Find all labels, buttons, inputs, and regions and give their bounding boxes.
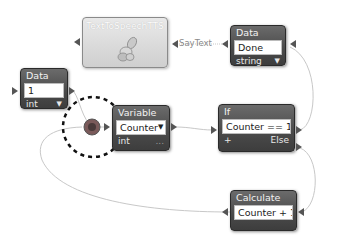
calculate-expression-input[interactable]: Counter + 1	[234, 205, 293, 220]
add-condition-button[interactable]: +	[224, 135, 232, 146]
variable-footer: int ...	[113, 135, 169, 148]
calculate-title: Calculate	[231, 191, 296, 205]
more-options-button[interactable]: ...	[155, 136, 164, 147]
data-done-type: string	[236, 56, 262, 67]
tts-node-title: TextToSpeechTTS	[83, 18, 167, 32]
hand-speech-icon	[117, 36, 139, 62]
tts-left-pin[interactable]	[74, 38, 80, 46]
wire-variable-to-if	[176, 127, 212, 130]
if-else-pin[interactable]	[296, 143, 302, 151]
chevron-down-icon[interactable]: ▼	[275, 56, 280, 67]
if-true-pin[interactable]	[296, 126, 302, 134]
wire-else-to-calculate	[300, 148, 315, 212]
tts-saytext-pin[interactable]	[172, 40, 178, 48]
variable-node[interactable]: Variable Counter ▼ int ...	[112, 105, 170, 151]
data-done-node[interactable]: Data Done string ▼	[230, 25, 286, 66]
data-done-value[interactable]: Done	[234, 40, 282, 55]
chevron-down-icon[interactable]: ▼	[158, 121, 163, 134]
calculate-left-pin[interactable]	[222, 208, 228, 216]
data-one-left-pin[interactable]	[12, 87, 18, 95]
saytext-label: SayText	[179, 38, 212, 48]
calculate-node[interactable]: Calculate Counter + 1	[230, 190, 297, 231]
variable-title: Variable	[113, 106, 169, 120]
data-done-type-select[interactable]: string ▼	[231, 55, 285, 68]
data-done-right-pin[interactable]	[290, 40, 296, 48]
data-one-node[interactable]: Data 1 int ▼	[20, 68, 68, 109]
visual-program-canvas[interactable]: TextToSpeechTTS SayText Data Done string…	[0, 0, 338, 250]
if-condition-input[interactable]: Counter == 10	[222, 119, 291, 134]
data-one-type-select[interactable]: int ▼	[21, 98, 67, 111]
join-node-core	[88, 123, 96, 131]
if-node[interactable]: If Counter == 10 + Else	[218, 104, 295, 152]
variable-name: Counter	[120, 121, 158, 134]
variable-select[interactable]: Counter ▼	[116, 120, 166, 135]
if-title: If	[219, 105, 294, 119]
variable-right-pin[interactable]	[171, 123, 177, 131]
data-done-title: Data	[231, 26, 285, 40]
if-footer: + Else	[219, 134, 294, 147]
data-one-right-pin[interactable]	[69, 87, 75, 95]
if-left-pin[interactable]	[211, 126, 217, 134]
variable-left-pin[interactable]	[104, 123, 110, 131]
calculate-right-pin[interactable]	[298, 208, 304, 216]
tts-node[interactable]: TextToSpeechTTS	[82, 17, 168, 68]
data-one-title: Data	[21, 69, 67, 83]
chevron-down-icon[interactable]: ▼	[57, 99, 62, 110]
else-label: Else	[271, 135, 289, 146]
data-one-type: int	[26, 99, 38, 110]
data-done-left-pin[interactable]	[222, 40, 228, 48]
variable-type: int	[118, 136, 130, 147]
data-one-value[interactable]: 1	[24, 83, 64, 98]
